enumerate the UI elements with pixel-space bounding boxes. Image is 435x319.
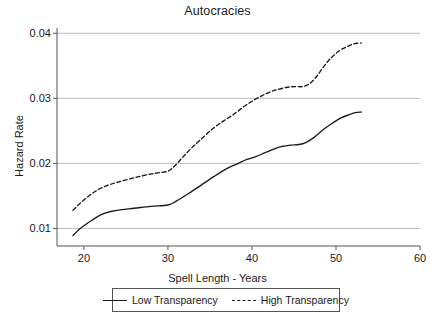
x-tick-label: 30 xyxy=(148,252,188,264)
legend-label: High Transparency xyxy=(261,294,349,306)
y-tick-label: 0.02 xyxy=(5,157,51,169)
legend-label: Low Transparency xyxy=(132,294,218,306)
axis-ticks xyxy=(53,33,420,250)
y-tick-label: 0.03 xyxy=(5,92,51,104)
gridlines xyxy=(57,33,420,228)
legend-item-high-transparency: High Transparency xyxy=(225,294,356,306)
x-tick-label: 20 xyxy=(64,252,104,264)
x-tick-label: 60 xyxy=(400,252,435,264)
chart-legend: Low Transparency High Transparency xyxy=(112,288,340,312)
legend-item-low-transparency: Low Transparency xyxy=(96,294,225,306)
y-tick-label: 0.04 xyxy=(5,27,51,39)
plot-area xyxy=(0,0,435,319)
dashed-line-swatch-icon xyxy=(232,300,256,301)
chart-container: Autocracies Hazard Rate Spell Length - Y… xyxy=(0,0,435,319)
y-tick-label: 0.01 xyxy=(5,222,51,234)
data-series xyxy=(73,43,361,236)
x-tick-label: 40 xyxy=(232,252,272,264)
solid-line-swatch-icon xyxy=(103,300,127,301)
axes xyxy=(57,28,420,246)
x-tick-label: 50 xyxy=(316,252,356,264)
